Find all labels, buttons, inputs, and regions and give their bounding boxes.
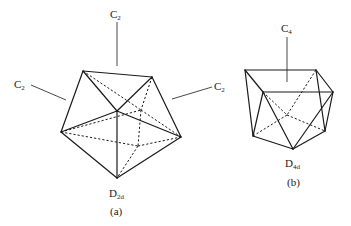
panel-b-d4d-polyhedron: C4 D4d (b): [245, 22, 333, 189]
solid-edges-b: [245, 70, 333, 149]
hidden-edges-b: [253, 70, 325, 136]
point-group-label-a: D2d: [109, 187, 124, 201]
point-group-label-b: D4d: [285, 157, 300, 171]
c4-label: C4: [281, 22, 292, 36]
c2-axis-left: [31, 85, 66, 100]
figure-canvas: C2 C2 C2 D2d (a) C4 D4d: [0, 0, 351, 226]
c2-label-right: C2: [214, 80, 225, 94]
c2-axis-right: [172, 87, 212, 99]
hidden-edges-a: [61, 71, 181, 178]
caption-a: (a): [110, 205, 123, 218]
c2-label-top: C2: [110, 8, 121, 22]
panel-a-d2d-polyhedron: C2 C2 C2 D2d (a): [14, 8, 225, 218]
caption-b: (b): [287, 176, 300, 189]
c2-label-left: C2: [14, 78, 25, 92]
